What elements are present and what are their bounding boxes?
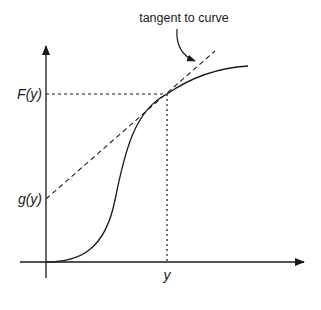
annotation-label: tangent to curve	[139, 11, 229, 25]
s-curve	[46, 66, 248, 262]
x-y-label: y	[163, 267, 172, 283]
g-y-label: g(y)	[18, 191, 42, 207]
f-y-label: F(y)	[17, 86, 42, 102]
annotation-arrow	[177, 29, 195, 61]
tangent-line	[46, 51, 215, 199]
tangent-diagram: tangent to curve F(y) g(y) y	[0, 0, 321, 310]
